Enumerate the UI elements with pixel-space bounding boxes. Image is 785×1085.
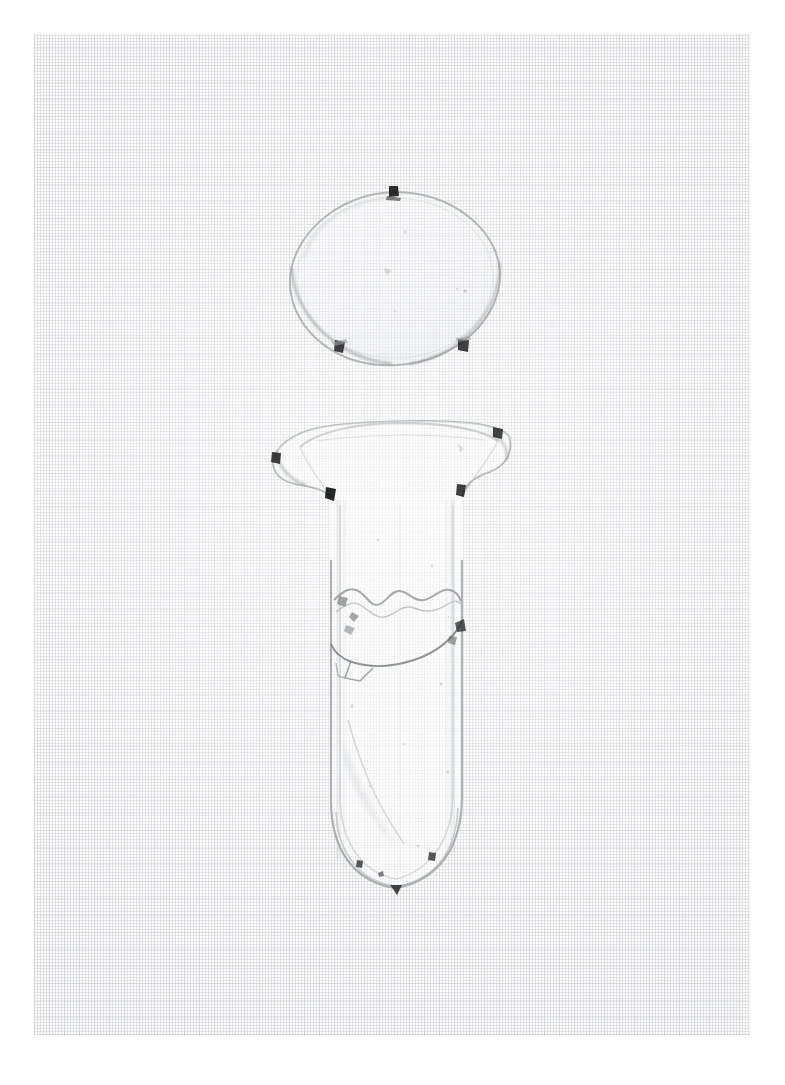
clip-base-left-icon (356, 860, 363, 868)
artwork-layer (0, 0, 785, 1085)
object-flanged-vessel (271, 421, 510, 895)
object-oval-lid (290, 186, 500, 365)
clip-flange-right-icon (456, 484, 466, 497)
flange-fill (273, 421, 510, 497)
vessel-body-fill (331, 497, 462, 888)
clip-rim-far-right-icon (493, 427, 503, 439)
clip-base-right-icon (428, 852, 436, 861)
vessel-illustration (0, 0, 785, 1085)
screenshot-canvas: Photographic plate of a colourless glass… (0, 0, 785, 1085)
clip-top-icon (389, 186, 399, 197)
clip-rim-far-left-icon (271, 452, 281, 464)
base-tip-mark (390, 885, 402, 895)
